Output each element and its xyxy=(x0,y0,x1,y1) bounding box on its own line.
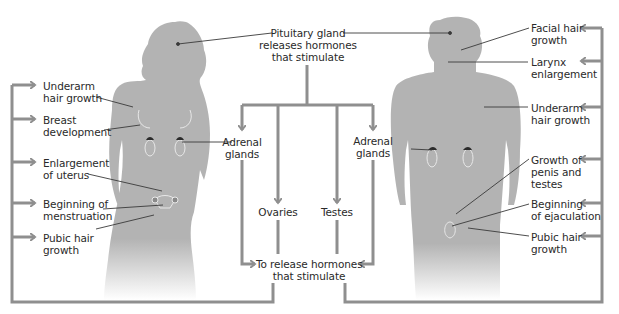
effect-line-2: of ejaculation xyxy=(531,210,601,222)
effect-line-2: menstruation xyxy=(43,210,112,222)
effect-line-1: Underarm xyxy=(531,102,590,114)
release-line-2: that stimulate xyxy=(256,270,362,282)
effect-line-1: Underarm xyxy=(43,80,102,92)
effect-line-2: penis and xyxy=(531,166,582,178)
effect-line-2: development xyxy=(43,126,111,138)
effect-line-1: Breast xyxy=(43,114,111,126)
effect-line-1: Larynx xyxy=(531,56,597,68)
male-effect-underarm: Underarm hair growth xyxy=(531,102,590,126)
effect-line-1: Beginning xyxy=(531,198,601,210)
male-effect-pubic-hair: Pubic hair growth xyxy=(531,231,582,255)
female-effect-menstruation: Beginning of menstruation xyxy=(43,198,112,222)
pituitary-line-2: releases hormones xyxy=(253,39,363,51)
effect-line-2: growth xyxy=(43,244,94,256)
release-label: To release hormones that stimulate xyxy=(256,258,362,282)
pituitary-label: Pituitary gland releases hormones that s… xyxy=(253,27,363,63)
effect-line-2: growth xyxy=(531,34,583,46)
release-line-1: To release hormones xyxy=(256,258,362,270)
puberty-hormone-diagram: Pituitary gland releases hormones that s… xyxy=(0,0,619,314)
adrenal-left-line-2: glands xyxy=(222,148,262,160)
male-silhouette xyxy=(391,17,521,300)
male-effect-facial-hair: Facial hair growth xyxy=(531,22,583,46)
effect-line-2: hair growth xyxy=(43,92,102,104)
effect-line-3: testes xyxy=(531,178,582,190)
female-effect-pubic-hair: Pubic hair growth xyxy=(43,232,94,256)
female-effect-uterus: Enlargement of uterus xyxy=(43,157,109,181)
effect-line-2: growth xyxy=(531,243,582,255)
effect-line-2: of uterus xyxy=(43,169,109,181)
effect-line-1: Pubic hair xyxy=(531,231,582,243)
adrenal-glands-right-label: Adrenal glands xyxy=(353,135,393,159)
pituitary-line-3: that stimulate xyxy=(253,51,363,63)
female-silhouette xyxy=(104,21,210,300)
adrenal-glands-left-label: Adrenal glands xyxy=(222,136,262,160)
effect-line-2: enlargement xyxy=(531,68,597,80)
effect-line-1: Beginning of xyxy=(43,198,112,210)
effect-line-1: Pubic hair xyxy=(43,232,94,244)
male-effect-ejaculation: Beginning of ejaculation xyxy=(531,198,601,222)
female-effect-underarm: Underarm hair growth xyxy=(43,80,102,104)
male-effect-larynx: Larynx enlargement xyxy=(531,56,597,80)
effect-line-2: hair growth xyxy=(531,114,590,126)
male-effect-penis-testes: Growth of penis and testes xyxy=(531,154,582,190)
pituitary-line-1: Pituitary gland xyxy=(253,27,363,39)
testes-label: Testes xyxy=(315,206,359,218)
effect-line-1: Enlargement xyxy=(43,157,109,169)
ovaries-label: Ovaries xyxy=(254,206,302,218)
female-effect-breast: Breast development xyxy=(43,114,111,138)
adrenal-right-line-1: Adrenal xyxy=(353,135,393,147)
adrenal-left-line-1: Adrenal xyxy=(222,136,262,148)
adrenal-right-line-2: glands xyxy=(353,147,393,159)
effect-line-1: Growth of xyxy=(531,154,582,166)
effect-line-1: Facial hair xyxy=(531,22,583,34)
